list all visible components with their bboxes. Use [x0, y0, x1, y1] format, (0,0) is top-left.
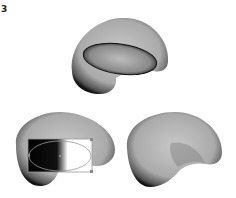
- figure-canvas: 3: [0, 0, 236, 198]
- top-shape: [72, 18, 168, 94]
- bottom-left-shape: [16, 112, 115, 186]
- illustration: [0, 0, 236, 198]
- bottom-right-shape: [127, 112, 222, 187]
